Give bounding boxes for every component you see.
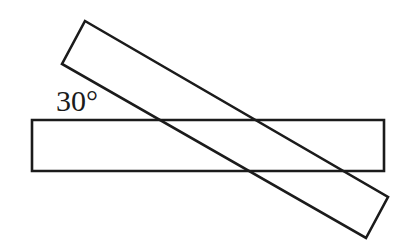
figure-svg-canvas — [0, 0, 406, 241]
angle-label-30-degrees: 30° — [56, 86, 98, 116]
geometry-figure: 30° — [0, 0, 406, 241]
